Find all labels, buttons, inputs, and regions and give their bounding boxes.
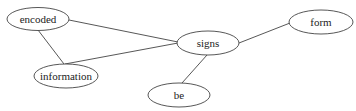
edge-information-signs xyxy=(65,43,178,64)
node-label: be xyxy=(174,89,185,101)
node-be: be xyxy=(148,83,210,107)
word-graph: encodedinformationsignsformbe xyxy=(0,0,356,111)
edge-encoded-information xyxy=(38,30,64,64)
node-label: information xyxy=(40,70,92,82)
node-label: signs xyxy=(197,37,220,49)
node-label: form xyxy=(310,16,332,28)
node-form: form xyxy=(289,10,353,34)
node-label: encoded xyxy=(20,13,57,25)
edge-encoded-signs xyxy=(69,20,178,42)
edge-signs-be xyxy=(182,55,207,83)
node-signs: signs xyxy=(177,31,239,55)
node-encoded: encoded xyxy=(7,8,69,31)
node-information: information xyxy=(34,64,98,88)
edge-signs-form xyxy=(239,23,290,43)
